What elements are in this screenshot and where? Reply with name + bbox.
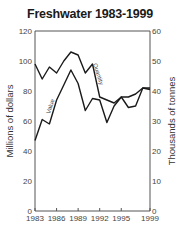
y-tick-label: 100: [19, 57, 33, 66]
y2-tick-label: 40: [152, 87, 161, 96]
y2-tick-label: 60: [152, 27, 161, 36]
line-chart: 0204060801001200102030405060198319861989…: [0, 0, 180, 232]
y-tick-label: 120: [19, 27, 33, 36]
x-tick-label: 1989: [69, 214, 87, 223]
chart-axes: 0204060801001200102030405060198319861989…: [4, 27, 177, 223]
y2-tick-label: 20: [152, 147, 161, 156]
series-label-quantity: Quantity: [92, 62, 105, 85]
y-tick-label: 80: [23, 87, 32, 96]
series-line-quantity: [35, 52, 150, 103]
x-tick-label: 1986: [48, 214, 66, 223]
x-tick-label: 1999: [141, 214, 159, 223]
x-tick-label: 1983: [26, 214, 44, 223]
x-tick-label: 1992: [91, 214, 109, 223]
y2-tick-label: 30: [152, 117, 161, 126]
y-tick-label: 40: [23, 147, 32, 156]
y2-axis-title: Thousands of tonnes: [166, 76, 177, 165]
y2-tick-label: 50: [152, 57, 161, 66]
y-tick-label: 60: [23, 117, 32, 126]
y2-tick-label: 10: [152, 177, 161, 186]
x-tick-label: 1995: [112, 214, 130, 223]
y-tick-label: 20: [23, 177, 32, 186]
y-axis-title: Millions of dollars: [4, 84, 15, 157]
